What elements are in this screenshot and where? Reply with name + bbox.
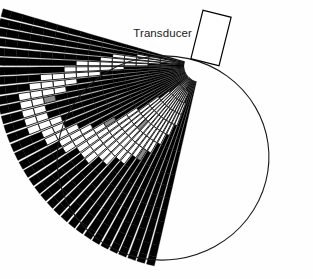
- scan-cell: [52, 67, 64, 73]
- scan-cell: [0, 18, 9, 28]
- scan-cell: [56, 25, 69, 33]
- scan-cell: [31, 98, 44, 107]
- scan-cell: [16, 75, 28, 83]
- scan-cell: [4, 49, 16, 57]
- scan-cell: [124, 66, 136, 69]
- scan-cell: [28, 59, 40, 66]
- scan-cell: [52, 73, 64, 79]
- scan-cell: [149, 244, 159, 257]
- scan-cell: [65, 41, 78, 48]
- scan-cell: [55, 32, 68, 40]
- scan-cell: [77, 49, 89, 55]
- scan-cell: [65, 79, 78, 86]
- scan-cell: [4, 76, 17, 84]
- figure-canvas: Transducer: [0, 0, 313, 279]
- scan-cell: [100, 52, 112, 57]
- scan-cell: [41, 81, 54, 88]
- scan-cell: [8, 21, 21, 31]
- scan-cell: [76, 67, 88, 72]
- scan-cell: [5, 85, 18, 94]
- scan-cell: [54, 38, 67, 45]
- scan-cell: [29, 82, 42, 90]
- scan-cell: [42, 36, 55, 44]
- scan-cell: [100, 57, 112, 62]
- scan-cell: [28, 51, 40, 58]
- scan-fan-cells: [0, 9, 196, 266]
- scan-cell: [54, 87, 67, 95]
- scan-cell: [4, 58, 16, 66]
- scan-cell: [152, 232, 162, 245]
- sector-scan-figure: [0, 0, 313, 279]
- scan-cell: [1, 114, 12, 124]
- scan-cell: [10, 11, 24, 21]
- scan-cell: [28, 67, 40, 74]
- scan-cell: [40, 74, 52, 81]
- scan-cell: [4, 67, 16, 75]
- scan-cell: [124, 69, 136, 73]
- scan-cell: [136, 66, 148, 69]
- scan-cell: [64, 67, 76, 72]
- scan-cell: [40, 67, 52, 73]
- scan-cell: [148, 66, 160, 68]
- scan-cell: [10, 111, 24, 121]
- scan-cell: [5, 39, 18, 48]
- scan-cell: [30, 34, 43, 42]
- scan-cell: [33, 18, 46, 27]
- scan-cell: [158, 209, 167, 222]
- scan-cell: [64, 54, 76, 60]
- scan-cell: [147, 255, 157, 266]
- scan-cell: [42, 88, 55, 96]
- scan-cell: [8, 102, 21, 112]
- scan-cell: [155, 220, 164, 233]
- scan-cell: [41, 44, 54, 51]
- scan-cell: [18, 32, 31, 41]
- scan-cell: [0, 96, 8, 105]
- scan-cell: [52, 60, 64, 66]
- scan-cell: [20, 100, 33, 109]
- transducer-label: Transducer: [110, 26, 192, 40]
- scan-cell: [1, 9, 12, 19]
- scan-cell: [0, 48, 5, 56]
- transducer-body: [191, 10, 231, 66]
- scan-cell: [64, 60, 76, 65]
- scan-cell: [0, 28, 7, 37]
- scan-cell: [43, 29, 56, 37]
- scan-cell: [0, 38, 6, 47]
- scan-cell: [65, 47, 78, 53]
- scan-cell: [112, 58, 124, 62]
- scan-cell: [100, 62, 112, 66]
- scan-cell: [19, 23, 32, 32]
- scan-cell: [17, 41, 30, 49]
- scan-cell: [30, 90, 43, 98]
- scan-cell: [0, 67, 4, 75]
- scan-cell: [88, 61, 100, 65]
- scan-cell: [43, 95, 56, 103]
- scan-cell: [0, 86, 6, 95]
- scan-cell: [6, 30, 19, 39]
- scan-cell: [28, 75, 40, 82]
- scan-cell: [88, 71, 100, 76]
- scan-cell: [52, 53, 64, 59]
- scan-cell: [53, 46, 66, 53]
- scan-cell: [45, 21, 58, 30]
- scan-cell: [16, 50, 28, 58]
- scan-cell: [101, 75, 113, 80]
- scan-cell: [18, 92, 31, 101]
- scan-cell: [40, 52, 52, 59]
- scan-cell: [89, 51, 101, 57]
- scan-cell: [88, 67, 100, 71]
- scan-cell: [77, 77, 89, 83]
- scan-cell: [29, 42, 42, 50]
- scan-cell: [76, 61, 88, 66]
- scan-cell: [53, 80, 66, 87]
- scan-cell: [0, 105, 10, 115]
- scan-cell: [40, 59, 52, 65]
- scan-cell: [0, 77, 5, 85]
- scan-cell: [17, 84, 30, 92]
- scan-cell: [16, 67, 28, 74]
- scan-cell: [0, 57, 4, 65]
- scan-cell: [112, 70, 124, 74]
- scan-cell: [64, 73, 76, 79]
- scan-cell: [76, 72, 88, 77]
- scan-cell: [16, 58, 28, 65]
